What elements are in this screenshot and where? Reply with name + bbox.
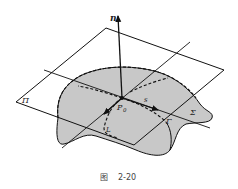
label-sigma: Σ xyxy=(189,108,196,117)
caption-prefix: 图 xyxy=(100,173,108,182)
label-s: s xyxy=(144,96,148,104)
surface-tangent-plane-diagram: n Π Σ Γ s L P 0 图 2-20 xyxy=(0,0,238,189)
label-gamma: Γ xyxy=(165,117,172,126)
surface-sigma xyxy=(57,67,212,155)
label-pi: Π xyxy=(21,96,30,105)
label-l: L xyxy=(105,126,111,134)
label-p: P xyxy=(116,103,123,112)
point-p0 xyxy=(120,96,124,100)
caption-number: 2-20 xyxy=(118,173,136,182)
label-n: n xyxy=(110,13,117,23)
label-p-sub: 0 xyxy=(123,107,127,113)
